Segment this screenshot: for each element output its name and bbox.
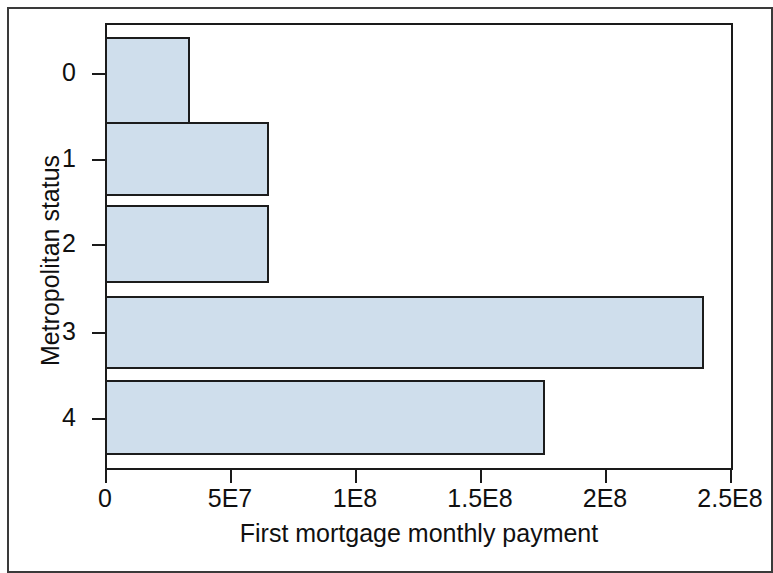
x-axis-tick-2 <box>355 470 357 483</box>
x-axis-tick-label-0: 0 <box>98 486 112 511</box>
bar-category-3 <box>105 296 704 369</box>
bar-category-0 <box>105 37 190 125</box>
y-axis-title: Metropolitan status <box>36 61 65 461</box>
x-axis-tick-label-2: 1E8 <box>333 486 377 511</box>
y-axis-tick-3 <box>92 332 105 334</box>
x-axis-tick-5 <box>730 470 732 483</box>
x-axis-tick-3 <box>480 470 482 483</box>
y-axis-tick-0 <box>92 73 105 75</box>
y-axis-tick-2 <box>92 244 105 246</box>
x-axis-tick-0 <box>105 470 107 483</box>
plot-area <box>105 23 733 470</box>
y-axis-tick-1 <box>92 159 105 161</box>
bar-category-4 <box>105 380 545 455</box>
x-axis-tick-label-1: 5E7 <box>208 486 252 511</box>
x-axis-title: First mortgage monthly payment <box>105 519 733 548</box>
x-axis-tick-1 <box>230 470 232 483</box>
x-axis-tick-label-4: 2E8 <box>583 486 627 511</box>
y-axis-tick-4 <box>92 418 105 420</box>
x-axis-tick-4 <box>605 470 607 483</box>
x-axis-tick-label-3: 1.5E8 <box>447 486 512 511</box>
bar-category-1 <box>105 122 269 196</box>
bar-category-2 <box>105 205 269 283</box>
x-axis-tick-label-5: 2.5E8 <box>697 486 762 511</box>
